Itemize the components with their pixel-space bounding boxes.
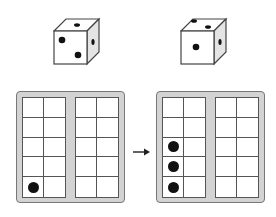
cell — [76, 157, 97, 177]
cell — [216, 118, 237, 138]
cell — [97, 157, 118, 177]
cell — [76, 177, 97, 197]
cell — [216, 177, 237, 197]
cell — [184, 138, 205, 158]
cell — [184, 98, 205, 118]
cell — [23, 177, 44, 197]
right-arrow-icon — [133, 148, 151, 156]
cell — [76, 98, 97, 118]
cell — [163, 98, 184, 118]
cell — [23, 157, 44, 177]
cell — [216, 98, 237, 118]
cell — [44, 118, 65, 138]
ten-frame-grid-right — [215, 97, 259, 198]
cell — [97, 138, 118, 158]
cell — [237, 138, 258, 158]
cell — [237, 118, 258, 138]
ten-frame-grid-left — [22, 97, 66, 198]
counter-dot — [28, 182, 39, 193]
cell — [216, 138, 237, 158]
counter-dot — [168, 182, 179, 193]
cell — [163, 157, 184, 177]
cell — [23, 118, 44, 138]
ten-frame-before — [16, 91, 125, 203]
cell — [23, 138, 44, 158]
cell — [44, 98, 65, 118]
ten-frame-after — [156, 91, 265, 203]
cell — [76, 118, 97, 138]
counter-dot — [168, 161, 179, 172]
cell — [76, 138, 97, 158]
cell — [44, 177, 65, 197]
die-right — [180, 16, 228, 66]
cell — [97, 98, 118, 118]
ten-frame-grid-left — [162, 97, 206, 198]
cell — [184, 157, 205, 177]
cell — [44, 157, 65, 177]
cell — [184, 177, 205, 197]
cell — [23, 98, 44, 118]
cell — [97, 118, 118, 138]
cell — [237, 98, 258, 118]
cell — [237, 177, 258, 197]
counter-dot — [168, 141, 179, 152]
ten-frame-grid-right — [75, 97, 119, 198]
cell — [216, 157, 237, 177]
cell — [163, 177, 184, 197]
cell — [44, 138, 65, 158]
cell — [184, 118, 205, 138]
cell — [163, 138, 184, 158]
die-left — [53, 16, 101, 66]
cell — [237, 157, 258, 177]
cell — [163, 118, 184, 138]
cell — [97, 177, 118, 197]
